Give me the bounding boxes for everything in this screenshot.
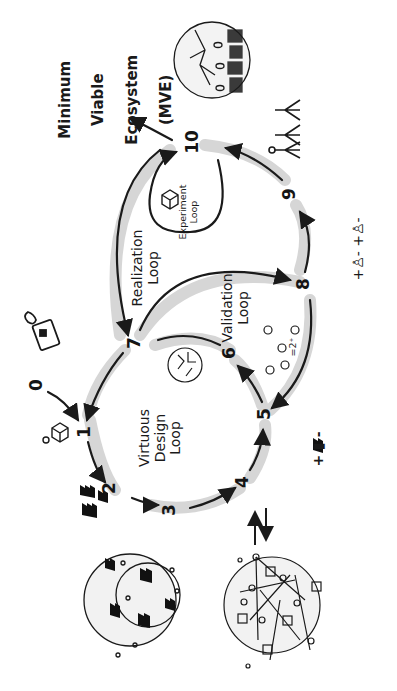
sketch-circle-icon [168, 348, 202, 382]
cube-icon-step-1 [43, 423, 68, 443]
people-icon [269, 100, 300, 158]
experiment-loop-label: Experiment Loop [178, 182, 202, 242]
people-plus-minus-annotation: +♙- +♙- [351, 209, 369, 289]
step-8: 8 [293, 278, 313, 290]
exchange-arrows-icon [255, 508, 266, 545]
virtuous-design-loop-label: Virtuous Design Loop [137, 398, 193, 478]
step-5: 5 [254, 408, 274, 420]
company-cluster-circle-icon [84, 554, 180, 657]
title-line-4: (MVE) [157, 75, 175, 126]
heart-icon [25, 312, 36, 324]
title-line-3: Ecosystem [123, 55, 141, 145]
mve-title: Minimum Viable Ecosystem (MVE) [40, 40, 110, 170]
step-10: 10 [182, 130, 202, 154]
step-0: 0 [26, 379, 46, 391]
step-9: 9 [279, 188, 299, 200]
mve-ecosystem-circle-icon [174, 22, 250, 98]
step-1: 1 [74, 426, 94, 438]
network-circle-icon [224, 554, 321, 668]
equation-annotation: =2⁺ [288, 332, 302, 362]
title-line-1: Minimum [56, 61, 74, 139]
cube-icon [162, 190, 178, 209]
realization-loop-label: Realization Loop [130, 225, 166, 311]
factory-plus-minus-annotation: + ▮ - [311, 419, 329, 479]
step-4: 4 [232, 476, 252, 488]
title-line-2: Viable [89, 73, 107, 126]
step-2: 2 [99, 482, 119, 494]
scroll-icon [32, 319, 60, 350]
validation-loop-label: Validation Loop [220, 268, 256, 348]
step-6: 6 [219, 347, 239, 359]
step-7: 7 [124, 337, 144, 349]
step-3: 3 [159, 504, 179, 516]
